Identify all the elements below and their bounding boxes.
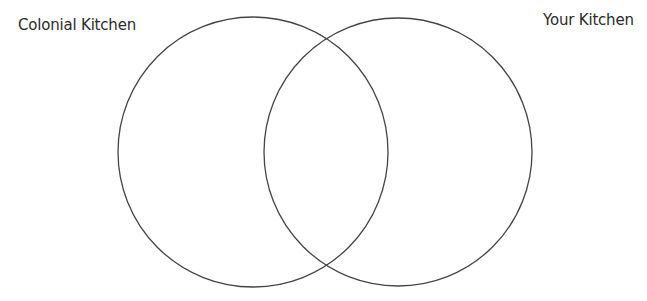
circle-your-kitchen bbox=[264, 18, 532, 286]
circle-colonial-kitchen bbox=[118, 17, 388, 287]
venn-diagram bbox=[0, 0, 647, 301]
